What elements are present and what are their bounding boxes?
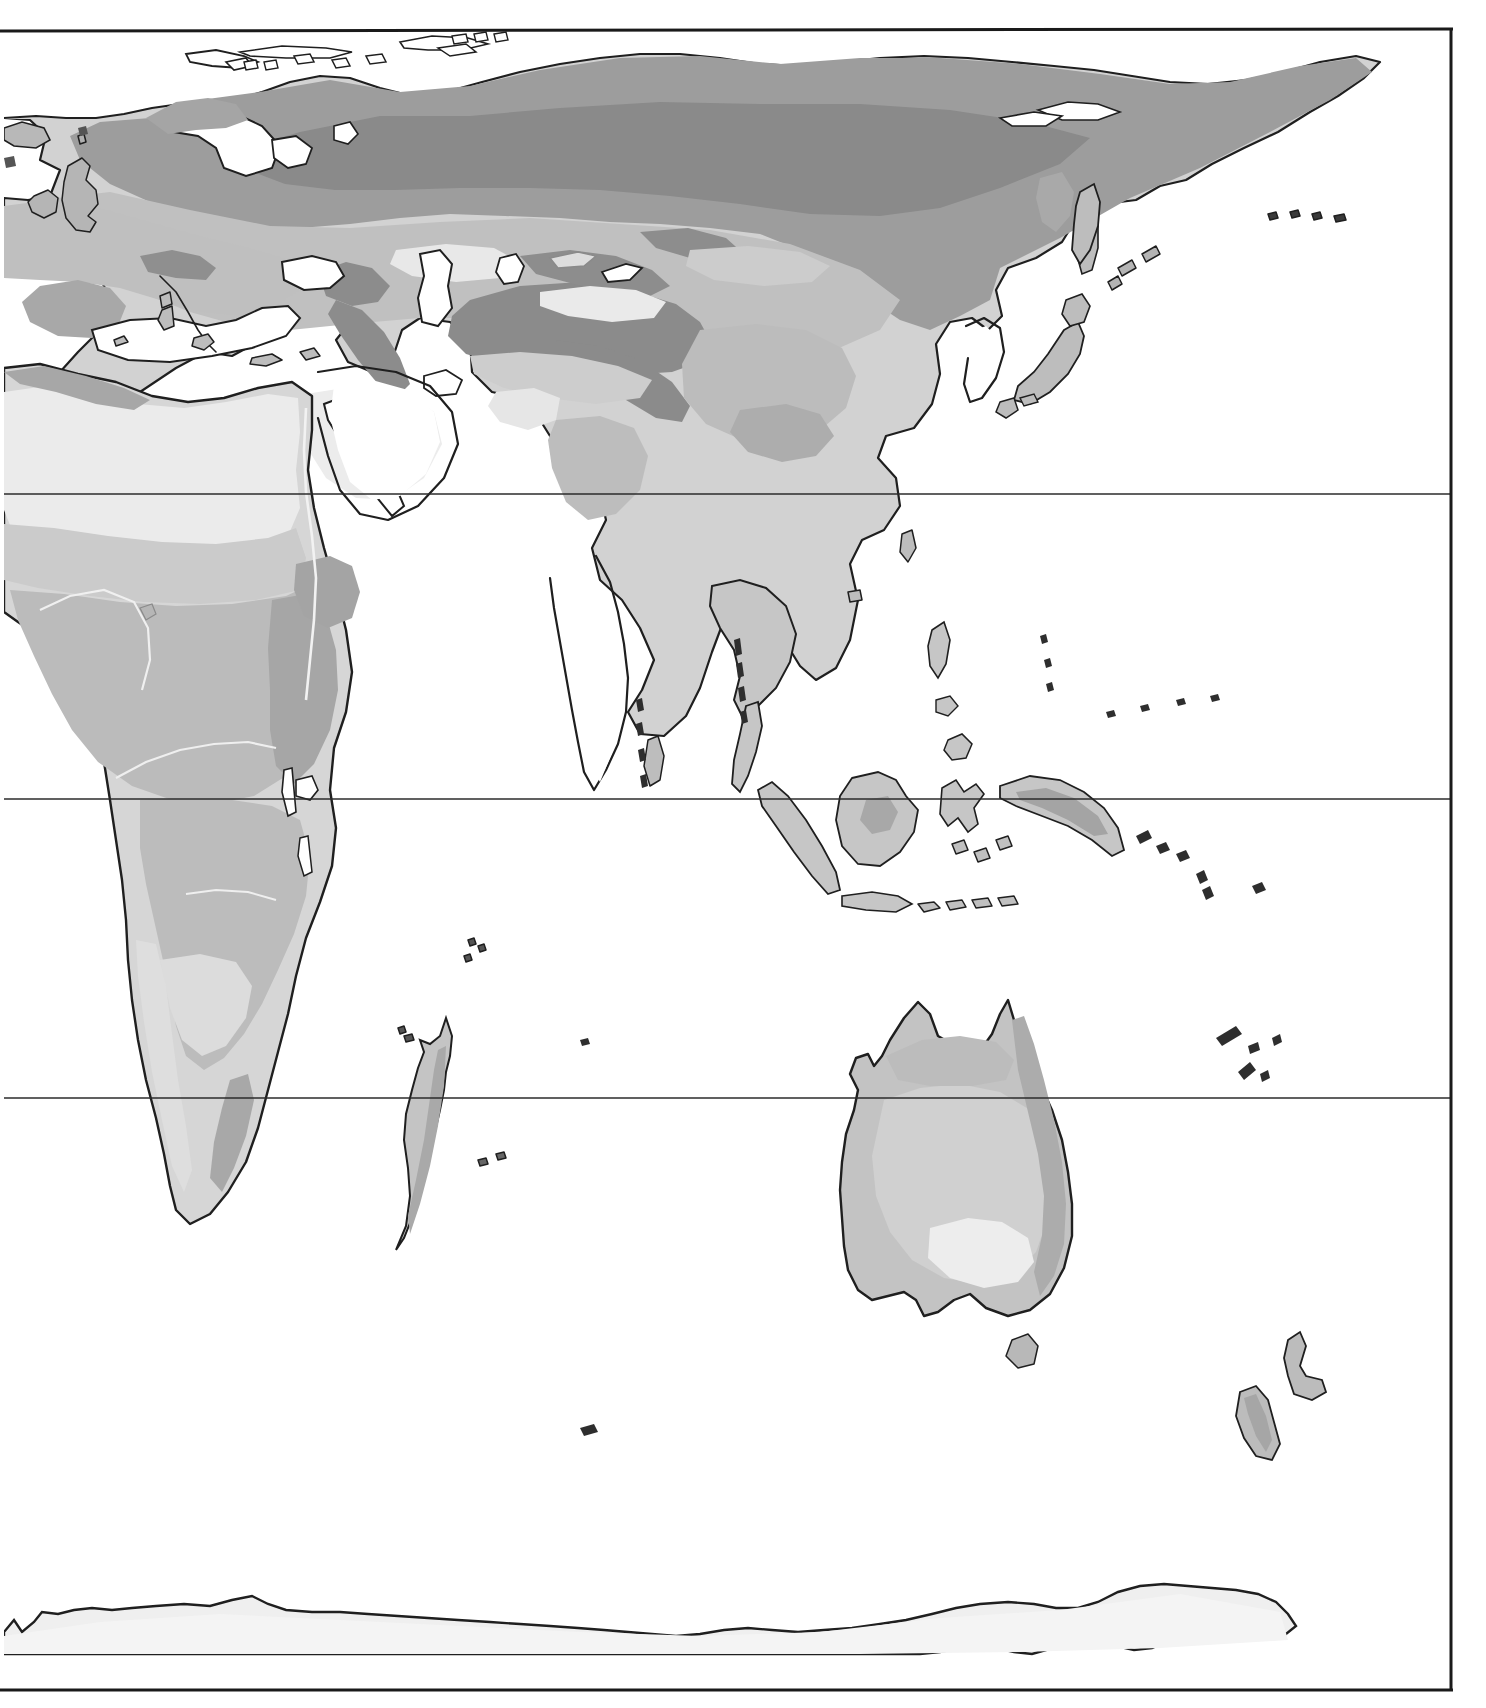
caspian-sea <box>418 250 452 326</box>
map-canvas <box>0 0 1486 1708</box>
world-map-svg <box>0 0 1486 1708</box>
hainan-island <box>848 590 862 602</box>
severnaya-zemlya-a <box>332 58 350 68</box>
azores-dot <box>4 156 16 168</box>
sri-lanka <box>644 736 664 786</box>
aral-sea <box>496 254 524 284</box>
neatline-top <box>0 29 1453 31</box>
shade-sahara-tone1 <box>4 386 300 548</box>
novaya-zemlya <box>294 54 314 64</box>
severnaya-zemlya-b <box>366 54 386 64</box>
